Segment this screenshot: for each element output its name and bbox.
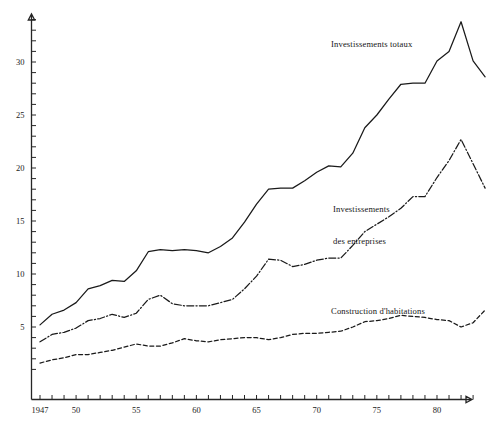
- x-axis-tick-labels: 194750556065707580: [32, 405, 442, 415]
- annotation-construction-d-habitations: Construction d'habitations: [331, 306, 425, 317]
- y-axis-tick-label: 20: [16, 163, 25, 173]
- y-axis-tick-labels: 51015202530: [16, 57, 25, 332]
- x-axis-line: [32, 396, 473, 402]
- y-axis-tick-label: 10: [16, 269, 25, 279]
- line-chart: 51015202530 194750556065707580: [0, 0, 489, 431]
- y-axis: 51015202530: [16, 14, 36, 400]
- annotation-investissements-des-entreprises: Investissements des entreprises: [333, 183, 390, 267]
- x-axis-ticks: [40, 395, 473, 400]
- x-axis-tick-label: 65: [252, 405, 261, 415]
- x-axis-tick-label: 1947: [32, 405, 49, 415]
- y-axis-ticks: [32, 20, 37, 370]
- x-axis-tick-label: 55: [132, 405, 141, 415]
- series-line-construction-d-habitations: [40, 310, 485, 363]
- y-axis-tick-label: 25: [16, 110, 25, 120]
- y-axis-tick-label: 30: [16, 57, 25, 67]
- series-line-investissements-totaux: [40, 22, 485, 325]
- x-axis-tick-label: 70: [312, 405, 321, 415]
- annotation-entreprises-line2: des entreprises: [333, 236, 390, 247]
- y-axis-tick-label: 5: [20, 322, 24, 332]
- y-axis-tick-label: 15: [16, 216, 25, 226]
- x-axis-tick-label: 50: [72, 405, 81, 415]
- x-axis-tick-label: 60: [192, 405, 201, 415]
- annotation-entreprises-line1: Investissements: [333, 204, 390, 215]
- annotation-investissements-totaux: Investissements totaux: [331, 39, 412, 50]
- x-axis-tick-label: 80: [433, 405, 442, 415]
- x-axis-tick-label: 75: [373, 405, 382, 415]
- chart-container: 51015202530 194750556065707580 Investiss…: [0, 0, 489, 431]
- y-axis-line: [28, 14, 34, 400]
- x-axis: 194750556065707580: [32, 395, 474, 415]
